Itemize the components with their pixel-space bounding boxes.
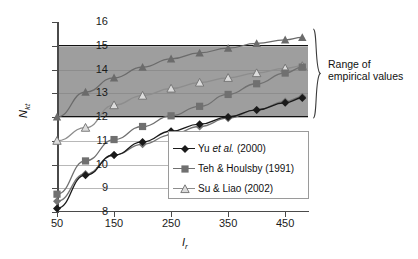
y-tick-label: 13: [84, 86, 108, 98]
series-marker: [225, 91, 232, 98]
y-axis-title: Nkt: [17, 104, 32, 118]
y-tick-label: 12: [84, 110, 108, 122]
y-tick-label: 9: [84, 181, 108, 193]
range-annotation-line2: empirical values: [328, 70, 403, 82]
series-marker: [110, 151, 118, 159]
legend-marker-icon: [173, 142, 195, 154]
series-marker: [253, 80, 260, 87]
x-tick-label: 450: [268, 217, 302, 229]
series-marker: [82, 171, 90, 179]
legend-item-label: Yu et al. (2000): [195, 143, 266, 154]
y-tick-label: 14: [84, 63, 108, 75]
chart-legend: Yu et al. (2000)Teh & Houlsby (1991)Su &…: [168, 131, 309, 199]
x-axis-title-sub: r: [185, 242, 188, 251]
y-axis-title-sub: kt: [23, 104, 32, 110]
legend-item[interactable]: Su & Liao (2002): [173, 178, 304, 198]
legend-item-label: Teh & Houlsby (1991): [195, 163, 294, 174]
chart-figure: Nkt Ir 8910111213141516 50150250350450 R…: [0, 0, 418, 259]
y-tick-label: 8: [84, 205, 108, 217]
series-marker: [299, 64, 306, 71]
y-tick-label: 11: [84, 134, 108, 146]
y-tick-label: 16: [84, 15, 108, 27]
series-marker: [298, 94, 306, 102]
series-marker: [53, 197, 61, 205]
series-marker: [167, 112, 174, 119]
x-tick-label: 50: [40, 217, 74, 229]
chart-canvas: Nkt Ir 8910111213141516 50150250350450 R…: [0, 0, 418, 259]
x-tick-label: 250: [154, 217, 188, 229]
series-marker: [53, 191, 60, 198]
legend-item-label: Su & Liao (2002): [195, 183, 273, 194]
range-annotation-line1: Range of: [328, 58, 403, 70]
x-axis-title: Ir: [182, 236, 188, 251]
series-marker: [224, 113, 232, 121]
series-marker: [110, 136, 117, 143]
series-marker: [282, 69, 289, 76]
range-bracket-icon: [312, 28, 322, 119]
series-marker: [281, 99, 289, 107]
series-marker: [196, 103, 203, 110]
series-marker: [253, 106, 261, 114]
y-axis-title-main: N: [17, 110, 29, 118]
y-tick-label: 15: [84, 39, 108, 51]
y-tick-label: 10: [84, 158, 108, 170]
legend-item[interactable]: Teh & Houlsby (1991): [173, 158, 304, 178]
series-marker: [139, 123, 146, 130]
range-annotation: Range of empirical values: [328, 58, 403, 82]
legend-marker-icon: [173, 182, 195, 194]
x-tick-label: 350: [211, 217, 245, 229]
legend-item[interactable]: Yu et al. (2000): [173, 138, 304, 158]
legend-marker-icon: [173, 162, 195, 174]
x-tick-label: 150: [97, 217, 131, 229]
